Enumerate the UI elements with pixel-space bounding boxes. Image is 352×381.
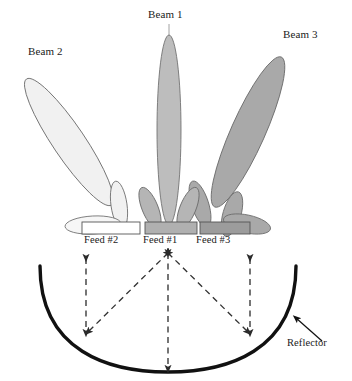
beam-2-main-lobe [13,70,125,214]
diagram-graphics [0,0,352,381]
beam-1-pattern [134,35,203,231]
feed-1-label: Feed #1 [143,234,177,245]
feed-1-block [145,222,197,234]
feed-2-block [82,222,140,234]
beam-3-pattern [184,50,296,238]
feed-3-label: Feed #3 [196,234,230,245]
feed-3-block [200,222,250,234]
beam-2-pattern [13,70,130,235]
ray-diagonal-left [88,253,168,332]
beam-1-label: Beam 1 [148,8,183,20]
reflector-label: Reflector [287,337,327,348]
ray-diagonal-right [168,253,248,332]
figure-canvas: Beam 1 Beam 2 Beam 3 Feed #2 Feed #1 Fee… [0,0,352,381]
beam-3-main-lobe [199,50,297,214]
beam-3-label: Beam 3 [283,28,318,40]
ray-group [86,253,250,369]
beam-2-label: Beam 2 [28,45,63,57]
feed-2-label: Feed #2 [84,234,118,245]
beam-1-main-lobe [157,35,181,225]
